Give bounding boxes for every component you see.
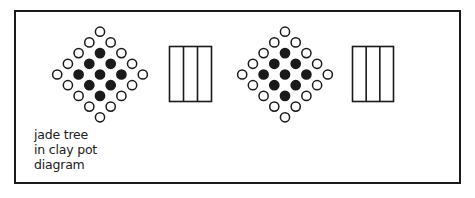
filled-dot <box>302 70 311 79</box>
plant-top-view-1 <box>53 27 148 122</box>
open-dot <box>95 27 104 36</box>
pot-outline <box>170 47 212 102</box>
open-dot <box>117 91 126 100</box>
caption-line-1: jade tree <box>34 127 97 142</box>
open-dot <box>259 49 268 58</box>
filled-dot <box>106 81 115 90</box>
open-dot <box>63 81 72 90</box>
filled-dot <box>280 49 289 58</box>
open-dot <box>248 59 257 68</box>
filled-dot <box>291 81 300 90</box>
filled-dot <box>291 59 300 68</box>
filled-dot <box>270 59 279 68</box>
open-dot <box>63 59 72 68</box>
caption-line-3: diagram <box>34 157 97 172</box>
filled-dot <box>85 81 94 90</box>
filled-dot <box>74 70 83 79</box>
open-dot <box>291 38 300 47</box>
open-dot <box>280 113 289 122</box>
open-dot <box>74 91 83 100</box>
open-dot <box>313 81 322 90</box>
open-dot <box>74 49 83 58</box>
pot-side-view-2 <box>353 47 394 102</box>
open-dot <box>313 59 322 68</box>
filled-dot <box>95 49 104 58</box>
open-dot <box>128 59 137 68</box>
open-dot <box>302 49 311 58</box>
open-dot <box>270 102 279 111</box>
filled-dot <box>259 70 268 79</box>
open-dot <box>128 81 137 90</box>
open-dot <box>291 102 300 111</box>
diagram-caption: jade tree in clay pot diagram <box>34 127 97 172</box>
open-dot <box>95 113 104 122</box>
open-dot <box>238 70 247 79</box>
open-dot <box>270 38 279 47</box>
open-dot <box>85 38 94 47</box>
filled-dot <box>95 70 104 79</box>
filled-dot <box>280 91 289 100</box>
pot-side-view-1 <box>170 47 212 102</box>
open-dot <box>248 81 257 90</box>
open-dot <box>106 102 115 111</box>
open-dot <box>117 49 126 58</box>
open-dot <box>323 70 332 79</box>
pot-outline <box>353 47 394 102</box>
caption-line-2: in clay pot <box>34 142 97 157</box>
filled-dot <box>280 70 289 79</box>
open-dot <box>53 70 62 79</box>
filled-dot <box>85 59 94 68</box>
open-dot <box>302 91 311 100</box>
open-dot <box>106 38 115 47</box>
open-dot <box>280 27 289 36</box>
filled-dot <box>117 70 126 79</box>
filled-dot <box>270 81 279 90</box>
plant-top-view-2 <box>238 27 333 122</box>
filled-dot <box>95 91 104 100</box>
open-dot <box>259 91 268 100</box>
open-dot <box>138 70 147 79</box>
filled-dot <box>106 59 115 68</box>
open-dot <box>85 102 94 111</box>
